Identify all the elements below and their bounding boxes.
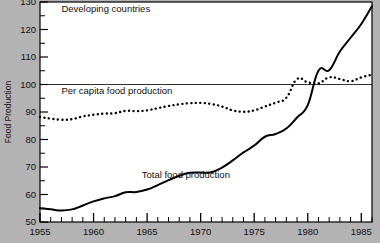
- y-axis-title: Food Production: [3, 81, 13, 144]
- plot-area-background: [40, 2, 372, 222]
- y-tick-label: 60: [25, 189, 36, 200]
- y-tick-label: 100: [20, 79, 36, 90]
- y-tick-label: 90: [25, 106, 36, 117]
- total-series-label: Total food production: [142, 169, 230, 180]
- x-tick-label: 1965: [137, 226, 158, 237]
- y-tick-label: 110: [21, 51, 36, 62]
- chart-canvas: 5060708090100110120130 19551960196519701…: [0, 0, 380, 243]
- per-capita-series-label: Per capita food production: [61, 85, 172, 96]
- y-tick-label: 80: [25, 134, 36, 145]
- x-tick-label: 1960: [83, 226, 104, 237]
- food-production-chart: 5060708090100110120130 19551960196519701…: [0, 0, 380, 243]
- y-tick-label: 70: [25, 161, 36, 172]
- region-label: Developing countries: [61, 3, 150, 14]
- x-tick-label: 1985: [351, 226, 372, 237]
- y-tick-label: 120: [20, 24, 36, 35]
- x-tick-label: 1970: [190, 226, 211, 237]
- x-tick-label: 1975: [244, 226, 265, 237]
- x-tick-label: 1980: [297, 226, 318, 237]
- y-tick-label: 130: [20, 0, 36, 7]
- x-tick-label: 1955: [29, 226, 50, 237]
